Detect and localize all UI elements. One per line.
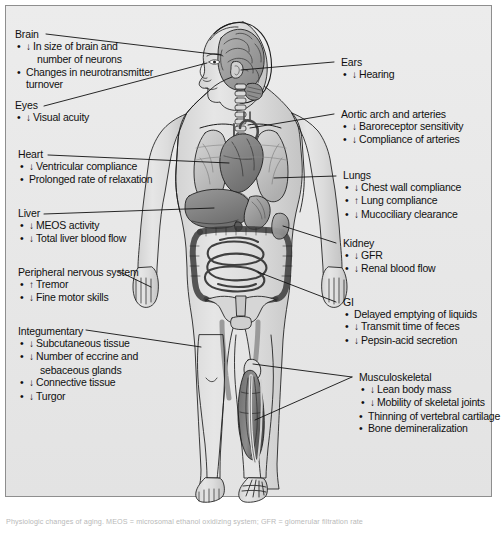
group-title-lungs: Lungs	[343, 169, 461, 181]
list-item: • ↓Mobility of skeletal joints	[359, 396, 500, 409]
group-heart: Heart • ↓Ventricular compliance • Prolon…	[18, 148, 152, 186]
bullet-list-lungs: • ↓Chest wall compliance • ↑Lung complia…	[343, 181, 461, 221]
bullet-dot: •	[345, 181, 348, 193]
list-item-text: Delayed emptying of liquids	[354, 308, 477, 320]
group-title-aortic-arch-and-arteries: Aortic arch and arteries	[341, 108, 463, 120]
arrow-down-icon: ↓	[352, 121, 359, 133]
list-item-text: Pepsin-acid secretion	[361, 334, 457, 346]
arrow-down-icon: ↓	[354, 182, 361, 194]
group-aortic-arch-and-arteries: Aortic arch and arteries • ↓Baroreceptor…	[341, 108, 463, 147]
figure-caption: Physiologic changes of aging. MEOS = mic…	[6, 517, 495, 526]
bullet-list-aortic-arch-and-arteries: • ↓Baroreceptor sensitivity • ↓Complianc…	[341, 120, 463, 147]
list-item: • Changes in neurotransmitter turnover	[15, 66, 153, 91]
list-item: • Bone demineralization	[359, 422, 500, 434]
list-item: • ↓Chest wall compliance	[343, 181, 461, 194]
bullet-dot: •	[343, 120, 346, 132]
bullet-list-ears: • ↓Hearing	[341, 68, 394, 81]
list-item-continuation: turnover	[26, 78, 153, 90]
list-item-text: Number of eccrine and	[36, 350, 138, 362]
list-item: • ↓Mucociliary clearance	[343, 208, 461, 221]
list-item-text: Lung compliance	[361, 194, 437, 206]
list-item: • ↑Lung compliance	[343, 194, 461, 207]
bullet-list-liver: • ↓MEOS activity • ↓Total liver blood fl…	[18, 219, 126, 246]
bullet-dot: •	[20, 350, 23, 362]
list-item-text: Compliance of arteries	[359, 133, 460, 145]
list-item-text: In size of brain and	[33, 40, 118, 52]
list-item-text: Tremor	[36, 278, 68, 290]
list-item: • ↓Pepsin-acid secretion	[343, 334, 477, 347]
list-item: • ↓Ventricular compliance	[18, 160, 152, 173]
group-title-peripheral-nervous-system: Peripheral nervous system	[18, 266, 139, 278]
group-gi: GI • Delayed emptying of liquids • ↓Tran…	[343, 296, 477, 347]
list-item-text: Transmit time of feces	[361, 320, 460, 332]
list-item-text: Bone demineralization	[368, 422, 468, 434]
list-item: • ↓Number of eccrine and sebaceous gland…	[18, 350, 138, 376]
bullet-dot: •	[17, 111, 20, 123]
group-peripheral-nervous-system: Peripheral nervous system • ↑Tremor • ↓F…	[18, 266, 139, 305]
list-item-text: Chest wall compliance	[361, 181, 461, 193]
arrow-down-icon: ↓	[370, 397, 377, 409]
bullet-dot: •	[345, 262, 348, 274]
bullet-dot: •	[345, 308, 348, 320]
arrow-down-icon: ↓	[370, 384, 377, 396]
list-item-text: Visual acuity	[33, 111, 89, 123]
bullet-dot: •	[361, 383, 364, 395]
group-title-heart: Heart	[18, 148, 152, 160]
arrow-down-icon: ↓	[29, 351, 36, 363]
group-musculoskeletal: Musculoskeletal • ↓Lean body mass • ↓Mob…	[359, 371, 500, 435]
bullet-dot: •	[345, 334, 348, 346]
group-integumentary: Integumentary • ↓Subcutaneous tissue • ↓…	[18, 325, 138, 403]
group-kidney: Kidney • ↓GFR • ↓Renal blood flow	[343, 237, 435, 276]
arrow-down-icon: ↓	[354, 263, 361, 275]
arrow-down-icon: ↓	[29, 233, 36, 245]
list-item: • ↓Subcutaneous tissue	[18, 337, 138, 350]
group-lungs: Lungs • ↓Chest wall compliance • ↑Lung c…	[343, 169, 461, 221]
list-item: • ↓Hearing	[341, 68, 394, 81]
group-brain: Brain • ↓In size of brain and number of …	[15, 28, 153, 91]
figure-root: Brain • ↓In size of brain and number of …	[0, 0, 501, 535]
bullet-dot: •	[361, 396, 364, 408]
bullet-list-eyes: • ↓Visual acuity	[15, 111, 89, 124]
group-title-liver: Liver	[18, 207, 126, 219]
list-item-text: Baroreceptor sensitivity	[359, 120, 463, 132]
arrow-down-icon: ↓	[29, 292, 36, 304]
list-item: • Delayed emptying of liquids	[343, 308, 477, 320]
list-item-text: Hearing	[359, 68, 394, 80]
list-item: • ↓Fine motor skills	[18, 291, 139, 304]
bullet-dot: •	[17, 40, 20, 52]
group-title-brain: Brain	[15, 28, 153, 40]
arrow-down-icon: ↓	[29, 391, 36, 403]
list-item-text: Fine motor skills	[36, 291, 108, 303]
list-item: • ↓Visual acuity	[15, 111, 89, 124]
arrow-down-icon: ↓	[29, 377, 36, 389]
list-item: • ↓Turgor	[18, 390, 138, 403]
bullet-dot: •	[359, 422, 362, 434]
list-item-text: Subcutaneous tissue	[36, 337, 130, 349]
list-item: • ↓GFR	[343, 249, 435, 262]
arrow-down-icon: ↓	[354, 209, 361, 221]
group-title-eyes: Eyes	[15, 99, 89, 111]
bullet-dot: •	[20, 278, 23, 290]
bullet-list-peripheral-nervous-system: • ↑Tremor • ↓Fine motor skills	[18, 278, 139, 305]
arrow-down-icon: ↓	[354, 335, 361, 347]
list-item: • ↓Transmit time of feces	[343, 320, 477, 333]
list-item-continuation: sebaceous glands	[29, 364, 138, 376]
group-title-integumentary: Integumentary	[18, 325, 138, 337]
bullet-dot: •	[359, 410, 362, 422]
list-item-text: Lean body mass	[377, 383, 451, 395]
bullet-list-integumentary: • ↓Subcutaneous tissue • ↓Number of eccr…	[18, 337, 138, 403]
list-item: • ↓Connective tissue	[18, 376, 138, 389]
list-item-text: Connective tissue	[36, 376, 115, 388]
bullet-dot: •	[17, 66, 20, 78]
bullet-dot: •	[20, 337, 23, 349]
bullet-list-brain: • ↓In size of brain and number of neuron…	[15, 40, 153, 91]
bullet-dot: •	[20, 173, 23, 185]
list-item: • ↓Baroreceptor sensitivity	[341, 120, 463, 133]
list-item: • ↓Renal blood flow	[343, 262, 435, 275]
list-item: • Thinning of vertebral cartilage	[359, 410, 500, 422]
list-item-text: Prolonged rate of relaxation	[29, 173, 152, 185]
list-item-text: Mucociliary clearance	[361, 208, 458, 220]
bullet-list-gi: • Delayed emptying of liquids • ↓Transmi…	[343, 308, 477, 347]
list-item-text: Total liver blood flow	[36, 232, 126, 244]
list-item-text: GFR	[361, 249, 383, 261]
